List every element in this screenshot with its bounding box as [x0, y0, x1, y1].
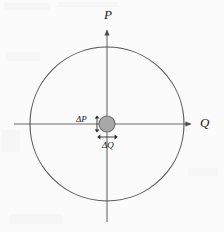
axis-label-q: Q [200, 116, 209, 129]
delta-q-label: ΔQ [102, 141, 114, 150]
uncertainty-disc [99, 116, 115, 132]
axis-label-p: P [104, 8, 112, 21]
delta-p-label: ΔP [76, 115, 87, 124]
diagram-canvas: P Q ΔP ΔQ [0, 0, 224, 232]
diagram-svg [0, 0, 224, 232]
